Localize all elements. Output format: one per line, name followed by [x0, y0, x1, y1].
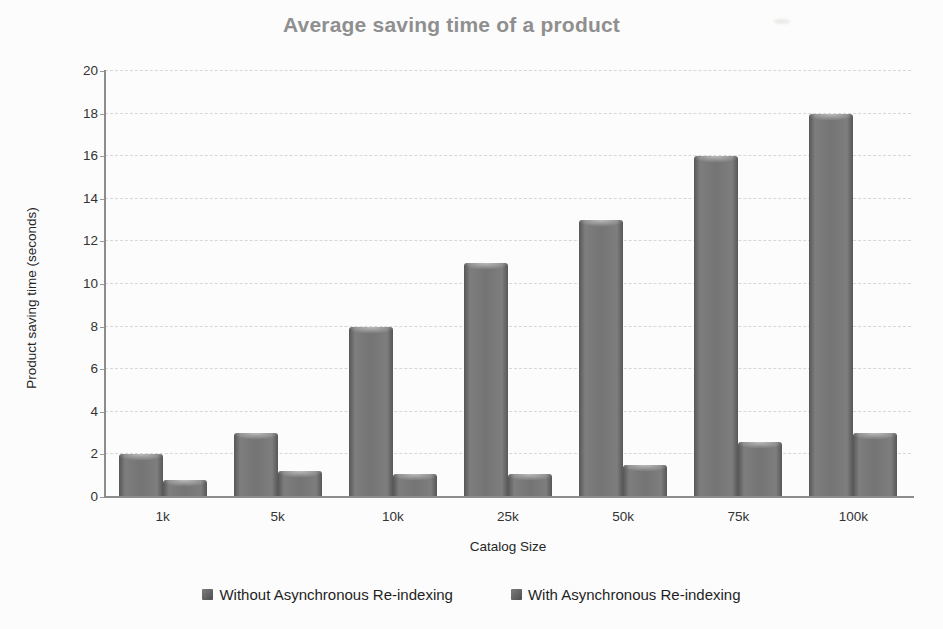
bar-5k-without-async: [234, 433, 278, 497]
x-axis-ticks: 1k5k10k25k50k75k100k: [105, 509, 911, 524]
x-tick-label-75k: 75k: [681, 509, 796, 524]
legend: Without Asynchronous Re-indexingWith Asy…: [0, 586, 943, 603]
bar-5k-with-async: [278, 471, 322, 497]
legend-label: Without Asynchronous Re-indexing: [219, 586, 452, 603]
x-axis-line: [104, 496, 914, 498]
bar-50k-with-async: [623, 465, 667, 497]
y-tick-label-0: 0: [58, 489, 98, 505]
y-tick-label-4: 4: [58, 404, 98, 420]
y-tick-label-10: 10: [58, 276, 98, 292]
scan-smudge: [774, 19, 790, 24]
legend-marker-icon: [511, 589, 522, 600]
bar-50k-without-async: [579, 220, 623, 497]
bar-group-25k: [450, 71, 565, 497]
x-tick-label-1k: 1k: [105, 509, 220, 524]
bar-25k-without-async: [464, 263, 508, 497]
bar-100k-without-async: [809, 114, 853, 497]
y-tick-label-18: 18: [58, 106, 98, 122]
bar-10k-without-async: [349, 327, 393, 497]
bar-group-5k: [220, 71, 335, 497]
bar-25k-with-async: [508, 474, 552, 497]
x-tick-label-5k: 5k: [220, 509, 335, 524]
legend-item: Without Asynchronous Re-indexing: [202, 586, 452, 603]
x-tick-label-10k: 10k: [335, 509, 450, 524]
y-axis-title: Product saving time (seconds): [24, 207, 39, 389]
bar-1k-without-async: [119, 454, 163, 497]
chart-title: Average saving time of a product: [0, 13, 903, 37]
legend-marker-icon: [202, 589, 213, 600]
bar-group-1k: [105, 71, 220, 497]
x-tick-label-50k: 50k: [566, 509, 681, 524]
x-tick-label-25k: 25k: [450, 509, 565, 524]
bar-1k-with-async: [163, 480, 207, 497]
plot-area: [105, 71, 911, 497]
y-tick-label-16: 16: [58, 148, 98, 164]
y-axis-line: [104, 70, 106, 498]
bar-group-50k: [566, 71, 681, 497]
bar-100k-with-async: [853, 433, 897, 497]
legend-label: With Asynchronous Re-indexing: [528, 586, 741, 603]
bar-75k-with-async: [738, 442, 782, 497]
legend-item: With Asynchronous Re-indexing: [511, 586, 741, 603]
bar-10k-with-async: [393, 474, 437, 497]
bar-group-75k: [681, 71, 796, 497]
bar-75k-without-async: [694, 156, 738, 497]
bar-group-10k: [335, 71, 450, 497]
y-tick-label-6: 6: [58, 361, 98, 377]
y-tick-label-20: 20: [58, 63, 98, 79]
x-axis-title: Catalog Size: [105, 539, 911, 554]
y-tick-label-12: 12: [58, 233, 98, 249]
bar-chart: Average saving time of a product Product…: [0, 0, 943, 629]
bar-group-100k: [796, 71, 911, 497]
y-tick-label-8: 8: [58, 319, 98, 335]
x-tick-label-100k: 100k: [796, 509, 911, 524]
y-tick-label-2: 2: [58, 446, 98, 462]
y-tick-label-14: 14: [58, 191, 98, 207]
